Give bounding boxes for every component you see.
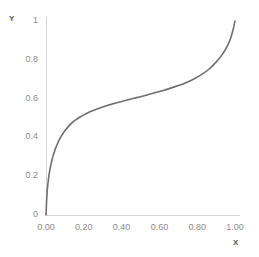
x-tick-label: 1.00 — [215, 222, 255, 232]
y-tick-label: 0.2 — [8, 170, 38, 180]
y-tick-label: 0.6 — [8, 93, 38, 103]
y-tick-label: 0.8 — [8, 54, 38, 64]
chart-container: Y X 10.80.60.40.200.000.200.400.600.801.… — [0, 0, 259, 257]
plot-area — [0, 0, 259, 257]
y-tick-label: 0.4 — [8, 131, 38, 141]
y-tick-label: 0 — [8, 209, 38, 219]
x-tick-label: 0.60 — [139, 222, 179, 232]
y-tick-label: 1 — [8, 15, 38, 25]
x-tick-label: 0.40 — [102, 222, 142, 232]
x-tick-label: 0.00 — [26, 222, 66, 232]
data-curve — [46, 21, 235, 215]
x-tick-label: 0.20 — [64, 222, 104, 232]
x-tick-label: 0.80 — [177, 222, 217, 232]
